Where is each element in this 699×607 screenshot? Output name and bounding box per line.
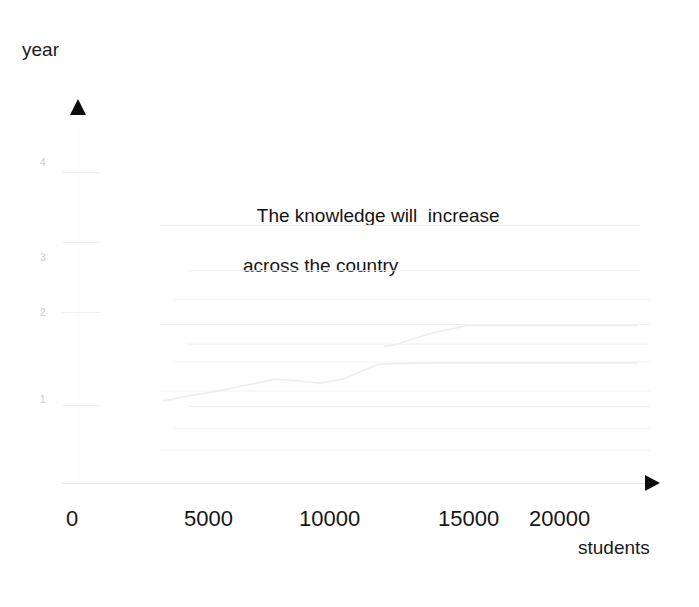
y-tick-label-1: 1 (40, 395, 46, 405)
y-tick-mark-2 (62, 312, 100, 313)
series-line-step-segment (385, 325, 638, 346)
y-axis-line (78, 124, 79, 483)
x-tick-label-0: 0 (66, 508, 78, 530)
triangle-right-icon (645, 475, 660, 491)
y-tick-label-2: 2 (40, 308, 46, 318)
y-tick-label-3: 3 (40, 253, 46, 263)
x-tick-label-5000: 5000 (184, 508, 233, 530)
triangle-up-icon (70, 99, 86, 115)
x-tick-label-10000: 10000 (299, 508, 360, 530)
x-axis-title: students (578, 538, 650, 557)
series-line-growth-curve (163, 363, 638, 401)
y-tick-mark-4 (62, 172, 100, 173)
x-tick-label-15000: 15000 (438, 508, 499, 530)
plot-title-line-1: The knowledge will increase (257, 205, 500, 226)
plot-title-line-2: across the country (236, 253, 500, 278)
chart-canvas: year students The knowledge will increas… (0, 0, 699, 607)
data-series (163, 325, 638, 401)
x-tick-label-20000: 20000 (529, 508, 590, 530)
x-axis-line (62, 483, 650, 484)
y-tick-mark-1 (62, 405, 100, 406)
y-axis-title: year (22, 40, 59, 59)
y-tick-label-4: 4 (40, 158, 46, 168)
plot-title: The knowledge will increase across the c… (236, 178, 500, 328)
y-tick-mark-3 (62, 242, 100, 243)
